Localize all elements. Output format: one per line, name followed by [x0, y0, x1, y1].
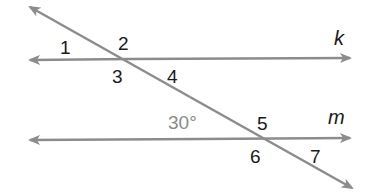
angle-label-4: 4 [167, 67, 178, 86]
transversal-line-up [30, 7, 190, 97]
angle-label-5: 5 [257, 114, 268, 133]
line-m-left [30, 139, 200, 140]
line-m-label: m [328, 107, 345, 127]
angle-label-2: 2 [118, 34, 129, 53]
given-angle-30: 30° [168, 113, 197, 132]
line-k-left [30, 59, 130, 60]
angle-label-6: 6 [250, 147, 261, 166]
line-k [130, 58, 350, 59]
angle-label-7: 7 [310, 147, 321, 166]
angle-label-3: 3 [112, 67, 123, 86]
angle-label-1: 1 [60, 38, 71, 57]
line-k-label: k [334, 28, 344, 48]
line-m [200, 138, 350, 139]
